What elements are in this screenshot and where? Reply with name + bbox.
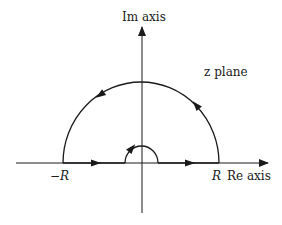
im-axis-label: Im axis [122,11,166,23]
arrow-right-icon [91,160,101,167]
arrow-right-icon [185,160,195,167]
neg-r-label: −R [50,170,69,182]
z-plane-label: z plane [204,66,248,78]
pos-r-label: R [212,170,221,182]
large-semicircle [63,82,219,163]
neg-r-text: −R [50,169,69,183]
re-axis-label: Re axis [227,170,271,182]
contour-diagram [0,0,282,225]
plane-text: z plane [204,65,248,79]
